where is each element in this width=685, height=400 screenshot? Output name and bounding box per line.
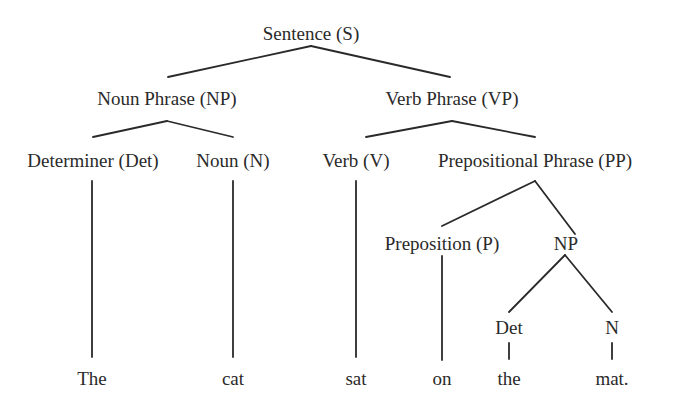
node-n2: N (605, 318, 619, 337)
node-np: Noun Phrase (NP) (97, 89, 236, 108)
node-pp: Prepositional Phrase (PP) (438, 151, 632, 170)
node-w_the: The (77, 369, 107, 388)
edge-pp-prep (442, 181, 535, 226)
node-det2: Det (495, 318, 522, 337)
tree-edges (0, 0, 685, 400)
node-np2: NP (554, 234, 578, 253)
node-w_mat: mat. (595, 369, 628, 388)
node-vp: Verb Phrase (VP) (386, 89, 519, 108)
node-w_sat: sat (345, 369, 366, 388)
edge-np-det (93, 121, 167, 137)
node-prep: Preposition (P) (385, 234, 500, 253)
edge-np2-det2 (509, 255, 565, 312)
edge-np2-n2 (565, 255, 612, 312)
edge-s-vp (311, 46, 450, 77)
edge-vp-verb (366, 121, 452, 137)
edge-pp-np2 (535, 181, 575, 234)
edge-np-noun (167, 121, 233, 137)
node-s: Sentence (S) (263, 24, 360, 43)
node-w_on: on (433, 369, 452, 388)
node-det: Determiner (Det) (27, 151, 158, 170)
node-noun: Noun (N) (196, 151, 269, 170)
edge-s-np (168, 46, 311, 77)
edge-vp-pp (452, 121, 535, 137)
node-w_the2: the (497, 369, 520, 388)
node-w_cat: cat (222, 369, 244, 388)
node-verb: Verb (V) (322, 151, 389, 170)
parse-tree-diagram: Sentence (S)Noun Phrase (NP)Verb Phrase … (0, 0, 685, 400)
